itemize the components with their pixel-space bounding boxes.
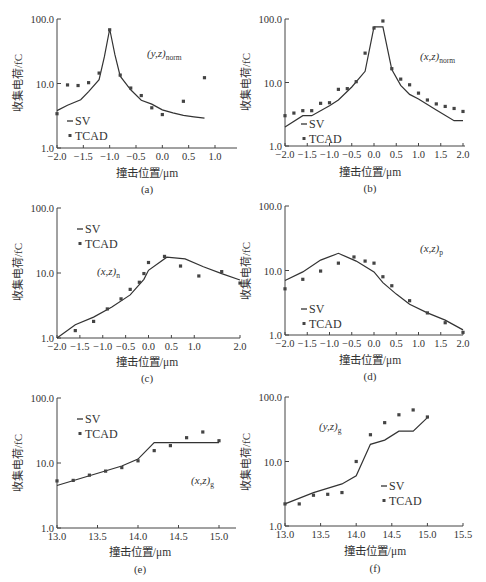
y-tick-label: 10.0: [264, 266, 282, 277]
tcad-point: [283, 502, 286, 505]
x-tick-label: −1.5: [74, 151, 93, 162]
tcad-point: [283, 287, 286, 290]
tcad-point: [98, 71, 101, 74]
tcad-point: [92, 320, 95, 323]
axes: [285, 397, 463, 526]
y-tick-label: 10.0: [264, 457, 282, 468]
x-tick-label: 0.0: [367, 338, 380, 349]
y-tick-label: 100.0: [258, 201, 282, 212]
y-axis-label: 收集电荷/fC: [11, 434, 24, 492]
y-tick-label: 10.0: [36, 79, 54, 90]
x-tick-label: −0.5: [342, 149, 361, 160]
y-tick-label: 100.0: [30, 393, 54, 404]
tcad-point: [364, 259, 367, 262]
tcad-point: [312, 494, 315, 497]
panel-caption: (f): [370, 562, 381, 575]
sv-line: [57, 257, 240, 338]
legend: SVTCAD: [77, 222, 118, 251]
tcad-point: [169, 444, 172, 447]
tcad-point: [163, 255, 166, 258]
tcad-point: [55, 479, 58, 482]
sv-line: [57, 29, 205, 118]
tcad-point: [310, 109, 313, 112]
tcad-point: [397, 413, 400, 416]
chart-panel-f: 1.010.0100.013.013.514.014.515.015.5SVTC…: [239, 392, 472, 575]
axes: [57, 398, 236, 528]
tcad-point: [444, 321, 447, 324]
x-tick-label: −1.5: [298, 338, 317, 349]
panel-caption: (b): [364, 182, 377, 195]
tcad-point: [461, 110, 464, 113]
tcad-point: [140, 94, 143, 97]
tcad-point: [444, 105, 447, 108]
legend-sv-label: SV: [85, 222, 101, 236]
tcad-point: [74, 329, 77, 332]
tcad-point: [87, 81, 90, 84]
tcad-point: [136, 459, 139, 462]
x-tick-label: 13.0: [48, 531, 66, 542]
figure-canvas: 1.010.0100.0−2.0−1.5−1.0−0.50.00.51.0SVT…: [0, 0, 486, 582]
tcad-point: [66, 83, 69, 86]
tcad-point: [161, 113, 164, 116]
tcad-point: [55, 112, 58, 115]
panel-caption: (a): [141, 183, 154, 196]
x-tick-label: 0.5: [390, 338, 403, 349]
y-tick-label: 10.0: [36, 268, 54, 279]
tcad-point: [147, 261, 150, 264]
x-tick-label: 2.0: [456, 338, 469, 349]
x-tick-label: 2.0: [456, 149, 469, 160]
panel-annotation: (x,z)norm: [420, 50, 455, 65]
x-tick-label: 14.0: [129, 531, 147, 542]
tcad-point: [355, 80, 358, 83]
x-tick-label: −0.5: [116, 341, 135, 352]
x-tick-label: 0.5: [390, 149, 403, 160]
tcad-point: [301, 109, 304, 112]
legend-tcad-label: TCAD: [309, 132, 342, 146]
tcad-point: [292, 111, 295, 114]
tcad-point: [435, 102, 438, 105]
tcad-point: [326, 493, 329, 496]
legend-tcad-label: TCAD: [85, 237, 118, 251]
tcad-point: [426, 415, 429, 418]
tcad-point: [301, 278, 304, 281]
x-tick-label: 14.0: [347, 529, 365, 540]
chart-panel-d: 1.010.0100.0−2.0−1.5−1.0−0.50.00.51.01.5…: [239, 201, 470, 383]
y-axis-label: 收集电荷/fC: [239, 433, 252, 491]
tcad-point: [179, 264, 182, 267]
x-axis-label: 撞击位置/μm: [344, 544, 406, 558]
tcad-point: [399, 78, 402, 81]
y-axis-label: 收集电荷/fC: [239, 242, 252, 300]
tcad-point: [461, 331, 464, 334]
panel-caption: (c): [141, 372, 154, 385]
tcad-legend-swatch: [69, 134, 72, 137]
x-tick-label: 0.0: [367, 149, 380, 160]
tcad-point: [119, 73, 122, 76]
legend-tcad-label: TCAD: [75, 129, 108, 143]
y-axis-label: 收集电荷/fC: [11, 54, 24, 112]
x-axis-label: 撞击位置/μm: [109, 545, 171, 559]
tcad-point: [201, 430, 204, 433]
x-tick-label: 0.5: [165, 341, 178, 352]
x-tick-label: −2.0: [275, 338, 294, 349]
x-tick-label: −1.0: [93, 341, 112, 352]
tcad-point: [346, 87, 349, 90]
panel-annotation: (x,z)n: [97, 265, 120, 280]
y-tick-label: 10.0: [36, 458, 54, 469]
x-tick-label: 0.0: [156, 151, 169, 162]
tcad-point: [412, 408, 415, 411]
y-axis-label: 收集电荷/fC: [11, 243, 24, 301]
x-tick-label: 15.5: [454, 529, 472, 540]
x-tick-label: −1.0: [320, 338, 339, 349]
tcad-point: [426, 98, 429, 101]
x-axis-label: 撞击位置/μm: [339, 353, 401, 367]
tcad-point: [372, 26, 375, 29]
tcad-point: [337, 262, 340, 265]
x-tick-label: 15.0: [418, 529, 436, 540]
tcad-point: [319, 269, 322, 272]
tcad-point: [355, 460, 358, 463]
x-tick-label: 1.5: [434, 338, 447, 349]
tcad-point: [383, 421, 386, 424]
x-tick-label: −1.0: [100, 151, 119, 162]
x-tick-label: −1.5: [298, 149, 317, 160]
legend-sv-label: SV: [309, 117, 325, 131]
